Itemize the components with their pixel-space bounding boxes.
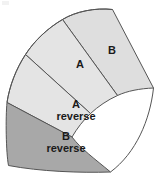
band-label-a-reverse-line-1: A: [42, 98, 110, 110]
band-label-a-outer-line-1: A: [58, 58, 102, 70]
band-label-b-reverse-line-2: reverse: [30, 142, 102, 154]
band-label-b-reverse: B reverse: [30, 130, 102, 154]
scan-artifact: [2, 1, 9, 5]
figure-root: B A A reverse B reverse: [0, 0, 164, 179]
band-label-b-outer-line-1: B: [90, 44, 134, 56]
band-label-a-outer: A: [58, 58, 102, 70]
band-label-a-reverse-line-2: reverse: [42, 110, 110, 122]
band-label-b-outer: B: [90, 44, 134, 56]
band-label-b-reverse-line-1: B: [30, 130, 102, 142]
inner-arc-edge: [111, 88, 154, 172]
band-label-a-reverse: A reverse: [42, 98, 110, 122]
